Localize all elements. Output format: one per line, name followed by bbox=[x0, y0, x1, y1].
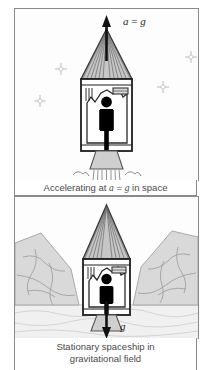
acceleration-label: a = g bbox=[123, 15, 146, 27]
caption-equals: = bbox=[114, 182, 125, 193]
rocket-cabin-interior bbox=[86, 88, 128, 150]
planet-surface-scene bbox=[15, 197, 198, 339]
rocket-nozzle bbox=[90, 151, 123, 169]
caption-line-1: Stationary spaceship in bbox=[15, 341, 196, 353]
caption-stationary: Stationary spaceship in gravitational fi… bbox=[14, 338, 197, 370]
caption-line-2: gravitational field bbox=[15, 353, 196, 365]
equivalence-principle-figure: a = g Accelerating at a = g in space bbox=[0, 0, 208, 370]
gravity-label: g bbox=[120, 320, 126, 332]
panel-accelerating-in-space: a = g bbox=[14, 8, 199, 181]
rocket-accelerating bbox=[15, 9, 198, 181]
caption-accelerating: Accelerating at a = g in space bbox=[14, 180, 197, 196]
caption-text-before: Accelerating at bbox=[44, 182, 109, 193]
panel-stationary-in-gravity: g bbox=[14, 196, 199, 339]
caption-text-after: in space bbox=[129, 182, 167, 193]
